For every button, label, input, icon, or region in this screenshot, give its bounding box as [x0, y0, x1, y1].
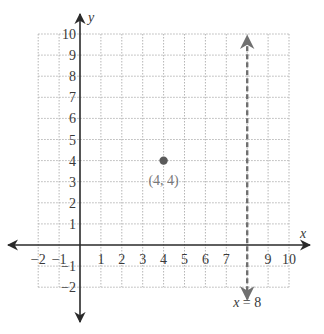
x-tick-label: 2	[118, 252, 125, 267]
coordinate-plane: xy−2−11234567910−2−112345678910x = 8(4, …	[0, 0, 324, 334]
y-axis-label: y	[86, 10, 95, 25]
y-tick-label: 6	[69, 111, 76, 126]
y-tick-label: 4	[69, 154, 76, 169]
x-tick-label: 3	[139, 252, 146, 267]
x-axis-label: x	[299, 226, 307, 241]
x-tick-label: 7	[223, 252, 230, 267]
y-tick-label: 8	[69, 69, 76, 84]
y-tick-label: 10	[62, 27, 76, 42]
x-tick-label: 1	[97, 252, 104, 267]
x-tick-label: 10	[282, 252, 296, 267]
x-tick-label: 6	[202, 252, 209, 267]
y-tick-label: 5	[69, 133, 76, 148]
point-marker	[159, 156, 167, 164]
y-tick-label: −1	[61, 259, 76, 274]
point-label: (4, 4)	[148, 173, 179, 189]
y-tick-label: 1	[69, 217, 76, 232]
x-tick-label: 9	[265, 252, 272, 267]
y-tick-label: 2	[69, 196, 76, 211]
x-tick-label: −2	[31, 252, 46, 267]
x-tick-label: 4	[160, 252, 167, 267]
y-tick-label: 9	[69, 48, 76, 63]
x-tick-label: 5	[181, 252, 188, 267]
y-tick-label: 3	[69, 175, 76, 190]
y-tick-label: −2	[61, 280, 76, 295]
line-equation-label: x = 8	[232, 295, 261, 310]
y-tick-label: 7	[69, 90, 76, 105]
